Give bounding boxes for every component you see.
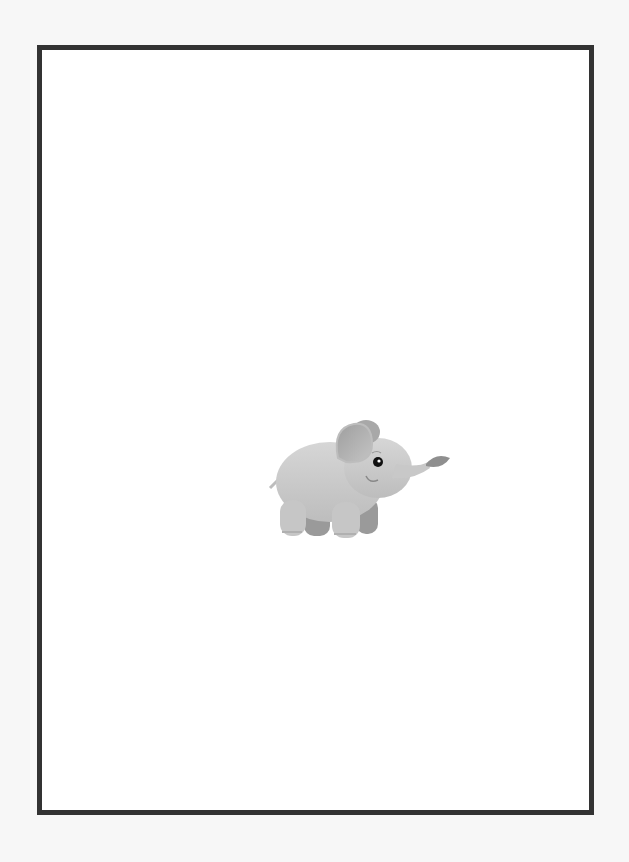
page-frame xyxy=(37,45,594,815)
elephant-icon xyxy=(268,418,454,542)
